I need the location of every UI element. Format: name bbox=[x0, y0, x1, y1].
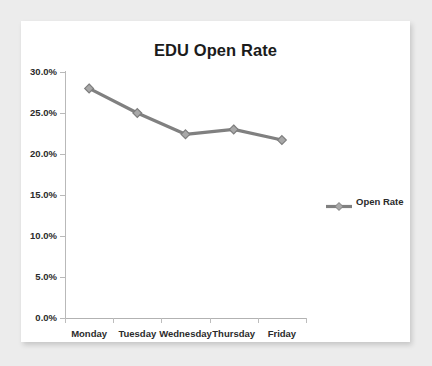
chart-card: EDU Open Rate 0.0%5.0%10.0%15.0%20.0%25.… bbox=[21, 21, 410, 342]
legend: Open Rate bbox=[326, 196, 404, 207]
series-data-point bbox=[229, 125, 238, 134]
legend-swatch-open-rate bbox=[326, 197, 352, 206]
series-plot-area bbox=[21, 21, 410, 342]
series-data-point bbox=[278, 136, 287, 145]
chart-page: EDU Open Rate 0.0%5.0%10.0%15.0%20.0%25.… bbox=[0, 0, 432, 366]
legend-label-open-rate: Open Rate bbox=[356, 196, 404, 207]
